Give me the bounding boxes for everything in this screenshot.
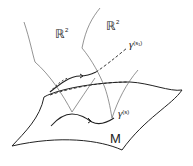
plane-left-label-sup: 2 — [65, 27, 68, 33]
plane-left-label: ℝ2 — [55, 28, 68, 40]
plane-left-inner-line — [72, 78, 95, 112]
lifted-curve-solid — [50, 72, 96, 92]
gamma-lower-label: γ(s) — [118, 108, 129, 119]
manifold-surface-outline — [12, 82, 182, 150]
lifted-curve-dashed — [96, 48, 127, 72]
plane-right-label-sup: 2 — [116, 19, 119, 25]
gamma-lower-arg: (s) — [122, 109, 129, 115]
plane-right-label: ℝ2 — [106, 20, 119, 32]
plane-right-label-base: ℝ — [106, 19, 116, 33]
manifold-diagram — [0, 0, 193, 166]
plane-left-label-base: ℝ — [55, 27, 65, 41]
base-curve — [51, 114, 114, 126]
hidden-edge-dashed — [50, 82, 128, 95]
gamma-upper-arg: (s₁) — [133, 40, 142, 46]
manifold-label: M — [110, 132, 121, 145]
gamma-upper-label: γ(s₁) — [129, 39, 142, 50]
